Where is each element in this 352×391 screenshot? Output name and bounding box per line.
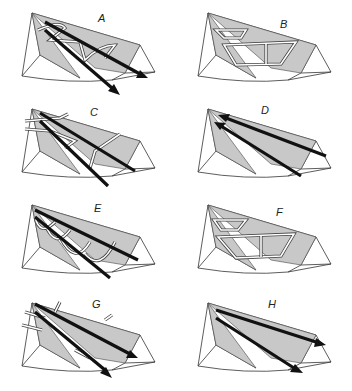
panel-b: B <box>198 13 331 81</box>
panel-d: D <box>198 104 331 177</box>
panel-c: C <box>22 106 155 186</box>
panel-e: E <box>22 202 155 278</box>
panel-a: A <box>22 12 155 95</box>
panel-label-e: E <box>94 202 102 214</box>
panel-h: H <box>198 298 331 373</box>
panel-g: G <box>22 298 155 378</box>
panel-label-c: C <box>90 106 98 118</box>
panel-label-f: F <box>276 206 284 218</box>
panel-label-d: D <box>261 104 269 116</box>
panel-label-h: H <box>268 298 276 310</box>
panel-label-b: B <box>280 18 287 30</box>
panel-label-a: A <box>97 12 105 24</box>
panel-label-g: G <box>92 298 101 310</box>
panel-f: F <box>198 205 331 273</box>
figure-canvas: A B C D <box>0 0 352 391</box>
